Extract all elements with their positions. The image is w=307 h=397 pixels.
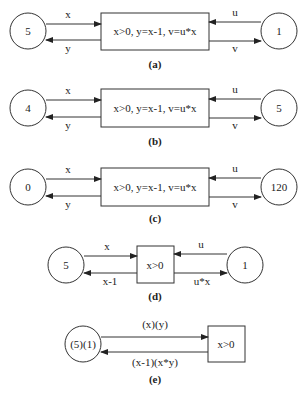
arc-label: v [232, 42, 238, 54]
place-tokens: (5)(1) [70, 338, 96, 351]
transition-guard: x>0 [217, 338, 235, 350]
caption: (d) [148, 290, 162, 303]
caption: (a) [149, 58, 162, 71]
transition-guard: x>0, y=x-1, v=u*x [114, 181, 197, 193]
arc-label: y [65, 42, 71, 54]
right-place-token: 1 [276, 25, 282, 37]
arc-label: y [65, 119, 71, 131]
left-place-token: 5 [63, 259, 69, 271]
right-place-token: 5 [276, 102, 282, 114]
transition-guard: x>0 [146, 259, 164, 271]
arc-label: u [232, 83, 238, 95]
caption: (b) [148, 135, 162, 148]
arc-label: u [232, 162, 238, 174]
diagram-d: 5 x>0 1 x x-1 u u*x (d) [48, 238, 263, 303]
diagram-a: 5 x>0, y=x-1, v=u*x 1 x y u v (a) [10, 6, 297, 71]
diagram-b: 4 x>0, y=x-1, v=u*x 5 x y u v (b) [10, 83, 297, 148]
arc-label: (x)(y) [142, 318, 168, 331]
petri-net-figure: 5 x>0, y=x-1, v=u*x 1 x y u v (a) 4 x>0,… [0, 0, 307, 397]
left-place-token: 0 [25, 181, 31, 193]
right-place-token: 1 [242, 259, 248, 271]
arc-label: u*x [194, 275, 211, 287]
arc-label: x [104, 240, 110, 252]
arc-label: x-1 [103, 275, 118, 287]
transition-guard: x>0, y=x-1, v=u*x [114, 25, 197, 37]
arc-label: x [65, 84, 71, 96]
diagram-e: (5)(1) x>0 (x)(y) (x-1)(x*y) (e) [65, 318, 245, 386]
left-place-token: 5 [25, 25, 31, 37]
right-place-token: 120 [271, 181, 288, 193]
arc-label: v [232, 198, 238, 210]
arc-label: y [65, 198, 71, 210]
diagram-c: 0 x>0, y=x-1, v=u*x 120 x y u v (c) [10, 162, 297, 225]
arc-label: v [232, 119, 238, 131]
caption: (c) [149, 212, 162, 225]
left-place-token: 4 [25, 102, 31, 114]
arc-label: (x-1)(x*y) [132, 356, 178, 369]
arc-label: u [232, 6, 238, 18]
arc-label: x [65, 163, 71, 175]
transition-guard: x>0, y=x-1, v=u*x [114, 102, 197, 114]
arc-label: u [198, 238, 204, 250]
caption: (e) [149, 373, 162, 386]
arc-label: x [65, 8, 71, 20]
